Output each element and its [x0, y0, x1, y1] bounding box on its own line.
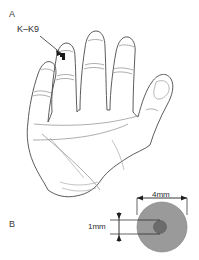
index-finger-nail-crease [59, 51, 73, 53]
panel-b-letter: B [9, 219, 15, 229]
thenar-crease [42, 134, 100, 190]
kk9-leader-line [40, 36, 62, 54]
middle-finger-outline [80, 31, 107, 110]
middle-finger-joint-crease-2 [84, 68, 104, 70]
kk9-annotation-label: K–K9 [17, 24, 39, 34]
figure-container: A [0, 0, 199, 260]
thenar-eminence-crease [112, 140, 124, 170]
arrowhead-left-4mm-icon [137, 196, 143, 201]
web-index-middle [77, 110, 80, 112]
arrowhead-bottom-1mm-icon [117, 235, 122, 241]
ring-finger-nail-crease [119, 45, 134, 47]
palm-ulnar-edge [27, 122, 48, 190]
palm-thenar-edge [101, 145, 150, 180]
middle-finger-joint-crease-1 [85, 64, 104, 66]
proximal-palmar-crease [33, 124, 128, 140]
disc-inner-circle [154, 221, 167, 234]
index-finger-joint-crease-1 [57, 75, 74, 77]
thenar-crease-secondary [50, 138, 84, 178]
little-finger-nail-crease [41, 69, 54, 72]
ring-finger-outline [110, 37, 135, 112]
little-finger-joint-crease-2 [33, 95, 50, 97]
ring-finger-joint-crease-1 [113, 68, 133, 70]
panel-a: A [0, 0, 199, 200]
ring-finger-joint-crease-2 [113, 72, 132, 74]
thumb-joint-crease [146, 109, 158, 111]
thumb-nail-outline [154, 81, 169, 100]
kk9-marker-patch [60, 53, 65, 57]
index-finger-joint-crease-2 [56, 79, 74, 81]
panel-b: B 4mm 1mm [0, 185, 199, 260]
arrowhead-top-1mm-icon [117, 213, 122, 219]
dimension-label-4mm: 4mm [152, 190, 170, 199]
little-finger-joint-crease-1 [34, 91, 51, 93]
arrowhead-right-4mm-icon [181, 196, 187, 201]
panel-a-letter: A [9, 9, 15, 19]
dimension-label-1mm: 1mm [88, 222, 106, 231]
kk9-marker-patch-secondary [62, 57, 65, 60]
middle-finger-nail-crease [88, 40, 103, 42]
